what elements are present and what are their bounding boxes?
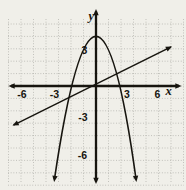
x-tick-neg6: -6 (17, 88, 26, 100)
x-tick-3: 3 (124, 88, 130, 100)
graph-canvas: -6 -3 3 6 3 -3 -6 x y (0, 0, 186, 190)
x-axis-label: x (165, 84, 172, 98)
x-tick-neg3: -3 (50, 88, 59, 100)
y-tick-3: 3 (82, 44, 88, 56)
graph-figure: -6 -3 3 6 3 -3 -6 x y (0, 0, 186, 190)
y-tick-neg3: -3 (78, 111, 87, 123)
y-axis-label: y (86, 9, 94, 23)
y-tick-neg6: -6 (78, 149, 87, 161)
x-tick-6: 6 (155, 88, 161, 100)
